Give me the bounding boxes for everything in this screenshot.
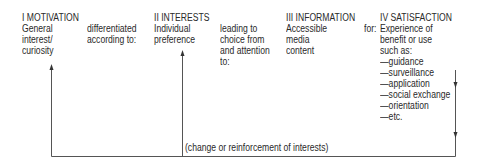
arrow-up-icon [50, 64, 54, 70]
arrow-down-icon [454, 132, 458, 138]
arrow-down-icon [454, 82, 458, 88]
arrow-up-icon [181, 50, 185, 56]
feedback-loop-lines [0, 0, 479, 163]
